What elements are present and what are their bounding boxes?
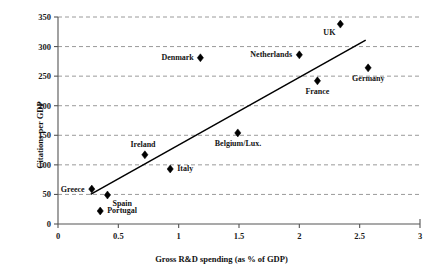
data-markers-group (89, 20, 372, 215)
point-label-netherlands: Netherlands (250, 50, 292, 59)
data-point-marker-france (314, 77, 320, 85)
x-tick-label-3: 3 (418, 231, 422, 241)
y-tick-label-350: 350 (0, 12, 51, 22)
x-tick-label-2: 2 (297, 231, 301, 241)
data-point-marker-portugal (97, 207, 103, 215)
data-point-marker-spain (104, 191, 110, 199)
point-label-italy: Italy (177, 164, 193, 173)
scatter-chart-figure: 050100150200250300350 00.511.522.53 Gree… (0, 0, 443, 270)
plot-canvas (0, 0, 443, 270)
y-tick-label-0: 0 (0, 219, 51, 229)
data-point-marker-uk (337, 20, 343, 28)
y-tick-label-50: 50 (0, 189, 51, 199)
y-tick-label-300: 300 (0, 42, 51, 52)
x-tick-label-0.5: 0.5 (113, 231, 124, 241)
data-point-marker-belgium-lux (235, 129, 241, 137)
x-tick-label-0: 0 (56, 231, 60, 241)
data-point-marker-italy (167, 165, 173, 173)
point-label-ireland: Ireland (130, 140, 155, 149)
point-label-uk: UK (323, 28, 335, 37)
trendline-segment (91, 40, 366, 194)
x-tick-label-1.5: 1.5 (234, 231, 245, 241)
data-point-marker-ireland (142, 151, 148, 159)
x-tick-label-2.5: 2.5 (354, 231, 365, 241)
data-point-marker-netherlands (296, 51, 302, 59)
point-label-spain: Spain (112, 199, 132, 208)
point-label-france: France (305, 87, 329, 96)
data-point-marker-germany (365, 64, 371, 72)
point-label-denmark: Denmark (161, 53, 193, 62)
y-axis-title: Citations per GDP (35, 101, 45, 168)
gridlines-group (58, 17, 420, 194)
x-tickmarks-group (58, 224, 420, 228)
point-label-germany: Germany (352, 74, 384, 83)
axis-lines-group (58, 17, 420, 224)
x-axis-title: Gross R&D spending (as % of GDP) (155, 254, 288, 264)
point-label-greece: Greece (61, 185, 85, 194)
trendline (91, 40, 366, 194)
y-tickmarks-group (54, 17, 58, 224)
y-tick-label-250: 250 (0, 71, 51, 81)
x-tick-label-1: 1 (177, 231, 181, 241)
data-point-marker-denmark (197, 54, 203, 62)
point-label-belgium-lux: Belgium/Lux. (215, 139, 261, 148)
